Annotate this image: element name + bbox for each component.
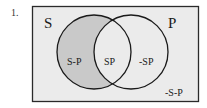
region-label-s-only: S-P	[67, 56, 82, 67]
region-label-outside: -S-P	[165, 87, 183, 98]
region-label-p-only: -SP	[139, 56, 154, 67]
venn-diagram: S P S-P SP -SP -S-P	[0, 0, 207, 108]
set-label-s: S	[44, 15, 52, 31]
set-label-p: P	[168, 15, 176, 31]
region-label-intersection: SP	[104, 56, 116, 67]
